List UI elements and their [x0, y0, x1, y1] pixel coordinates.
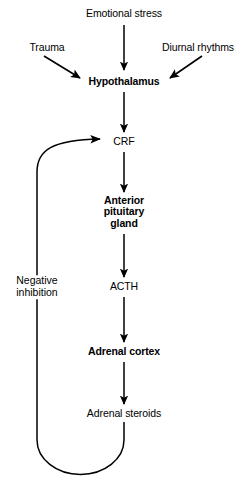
node-trauma: Trauma: [29, 42, 64, 53]
arrow-trauma-to-hypothalamus: [44, 56, 80, 78]
node-anterior-pituitary-gland: Anterior pituitary gland: [104, 195, 145, 229]
node-adrenal-steroids: Adrenal steroids: [87, 408, 161, 419]
node-diurnal-rhythms: Diurnal rhythms: [162, 42, 234, 53]
feedback-loop-lower: [37, 297, 124, 474]
node-acth: ACTH: [110, 281, 138, 292]
node-adrenal-cortex: Adrenal cortex: [88, 346, 160, 357]
hpa-axis-diagram: Emotional stress Trauma Diurnal rhythms …: [0, 0, 250, 480]
feedback-loop-upper-to-crf: [37, 139, 100, 277]
node-crf: CRF: [108, 136, 139, 147]
label-negative-inhibition: Negative inhibition: [5, 275, 69, 299]
node-emotional-stress: Emotional stress: [86, 8, 162, 19]
arrow-diurnal-rhythms-to-hypothalamus: [170, 56, 202, 78]
node-hypothalamus: Hypothalamus: [88, 76, 159, 87]
